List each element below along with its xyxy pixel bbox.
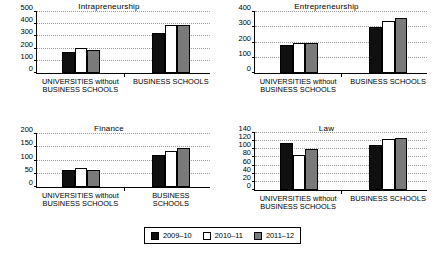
y-tick-label: 200 <box>20 41 37 49</box>
plot-area: 050100150200 <box>36 134 210 188</box>
bar <box>280 143 293 190</box>
legend-item: 2010–11 <box>203 232 243 240</box>
y-tick-label: 200 <box>20 126 37 134</box>
y-tick-label: 400 <box>20 16 37 24</box>
y-tick-label: 20 <box>243 174 255 182</box>
bar <box>87 50 100 73</box>
bar <box>305 43 318 73</box>
y-tick-label: 120 <box>238 133 255 141</box>
gridline <box>37 11 210 12</box>
x-axis-divider-tick <box>341 73 342 77</box>
y-tick-label: 100 <box>238 141 255 149</box>
x-axis-divider-tick <box>341 190 342 194</box>
chart-panel-intrapreneurship: Intrapreneurship 0100200300400500 UNIVER… <box>0 0 218 120</box>
gridline <box>255 132 427 133</box>
legend-item: 2009–10 <box>151 232 192 240</box>
x-axis-label: UNIVERSITIES without BUSINESS SCHOOLS <box>250 78 347 95</box>
bar <box>87 170 100 187</box>
x-axis-divider-tick <box>124 187 125 191</box>
y-tick-label: 300 <box>20 28 37 36</box>
chart-panel-finance: Finance 050100150200 UNIVERSITIES withou… <box>0 122 218 226</box>
gridline <box>255 11 427 12</box>
bar <box>305 149 318 190</box>
bar <box>293 155 306 190</box>
plot-area: 020406080100120140 <box>254 133 427 191</box>
chart-panel-entrepreneurship: Entrepreneurship 0100200300400 UNIVERSIT… <box>218 0 435 120</box>
y-tick-label: 0 <box>29 179 37 187</box>
legend-item: 2011–12 <box>254 232 294 240</box>
x-axis-label: BUSINESS SCHOOLS <box>122 192 219 209</box>
x-axis-label: BUSINESS SCHOOLS <box>340 78 435 86</box>
y-tick-label: 50 <box>25 166 37 174</box>
legend-label: 2010–11 <box>215 232 243 240</box>
x-axis-label: UNIVERSITIES without BUSINESS SCHOOLS <box>32 192 129 209</box>
bar <box>293 43 306 73</box>
bar <box>62 52 75 73</box>
y-tick-label: 150 <box>20 139 37 147</box>
legend-label: 2009–10 <box>163 232 192 240</box>
bar <box>395 138 408 190</box>
y-tick-label: 40 <box>243 166 255 174</box>
x-axis-label: UNIVERSITIES without BUSINESS SCHOOLS <box>250 195 347 212</box>
bar <box>75 168 88 187</box>
bar <box>75 48 88 73</box>
y-tick-label: 200 <box>238 35 255 43</box>
bar <box>152 155 165 187</box>
y-tick-label: 100 <box>20 153 37 161</box>
bar <box>165 25 178 73</box>
legend-label: 2011–12 <box>266 232 294 240</box>
plot-area: 0100200300400500 <box>36 12 210 74</box>
bar <box>152 33 165 73</box>
y-tick-label: 100 <box>20 53 37 61</box>
bar <box>369 27 382 73</box>
bar <box>369 145 382 190</box>
bar <box>165 151 178 187</box>
bar <box>382 21 395 73</box>
legend-swatch-2010-11 <box>203 232 211 240</box>
plot-area: 0100200300400 <box>254 12 427 74</box>
y-tick-label: 0 <box>247 182 255 190</box>
chart-grid: Intrapreneurship 0100200300400500 UNIVER… <box>0 0 435 224</box>
bar <box>177 25 190 73</box>
y-tick-label: 140 <box>238 125 255 133</box>
x-axis-label: BUSINESS SCHOOLS <box>340 195 435 203</box>
chart-panel-law: Law 020406080100120140 UNIVERSITIES with… <box>218 122 435 226</box>
bar <box>382 139 395 190</box>
y-tick-label: 0 <box>247 65 255 73</box>
bar <box>177 148 190 187</box>
y-tick-label: 400 <box>238 4 255 12</box>
bar <box>280 45 293 73</box>
y-tick-label: 100 <box>238 50 255 58</box>
y-tick-label: 0 <box>29 65 37 73</box>
y-tick-label: 500 <box>20 4 37 12</box>
gridline <box>37 133 210 134</box>
y-tick-label: 80 <box>243 149 255 157</box>
legend-swatch-2009-10 <box>151 232 159 240</box>
y-tick-label: 300 <box>238 19 255 27</box>
x-axis-label: BUSINESS SCHOOLS <box>122 78 219 86</box>
x-axis-divider-tick <box>124 73 125 77</box>
y-tick-label: 60 <box>243 158 255 166</box>
bar <box>395 18 408 73</box>
x-axis-label: UNIVERSITIES without BUSINESS SCHOOLS <box>32 78 129 95</box>
bar <box>62 170 75 187</box>
legend-swatch-2011-12 <box>254 232 262 240</box>
chart-legend: 2009–10 2010–11 2011–12 <box>144 227 301 244</box>
